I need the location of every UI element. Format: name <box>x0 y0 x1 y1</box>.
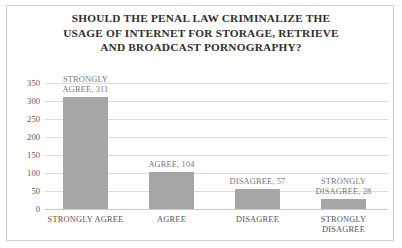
bar-disagree <box>235 189 280 210</box>
x-axis-label-strongly-disagree: STRONGLY DISAGREE <box>301 215 386 235</box>
chart-title: SHOULD THE PENAL LAW CRIMINALIZE THE USA… <box>33 11 369 55</box>
chart-title-line-2: USAGE OF INTERNET FOR STORAGE, RETRIEVE <box>33 26 369 41</box>
data-label-disagree-line-1: DISAGREE, 57 <box>215 177 300 187</box>
y-axis-tick-150: 150 <box>10 151 40 160</box>
y-axis-tick-200: 200 <box>10 133 40 142</box>
data-label-strongly-agree-line-1: STRONGLY <box>43 75 128 85</box>
data-label-strongly-agree: STRONGLY AGREE, 311 <box>43 75 128 94</box>
x-axis-label-agree: AGREE <box>129 215 214 225</box>
data-label-strongly-disagree-line-2: DISAGREE, 28 <box>301 187 386 197</box>
x-axis-label-disagree-line-1: DISAGREE <box>215 215 300 225</box>
bar-strongly-agree <box>63 97 108 209</box>
y-axis-tick-300: 300 <box>10 97 40 106</box>
data-label-strongly-disagree-line-1: STRONGLY <box>301 177 386 187</box>
y-axis-tick-0: 0 <box>10 205 40 214</box>
data-label-disagree: DISAGREE, 57 <box>215 177 300 187</box>
x-axis-label-strongly-disagree-line-1: STRONGLY <box>301 215 386 225</box>
y-axis-tick-100: 100 <box>10 169 40 178</box>
x-axis-label-strongly-agree-line-1: STRONGLY AGREE <box>43 215 128 225</box>
x-axis-label-strongly-disagree-line-2: DISAGREE <box>301 225 386 235</box>
x-axis-baseline <box>45 209 388 210</box>
x-axis-label-agree-line-1: AGREE <box>129 215 214 225</box>
data-label-strongly-agree-line-2: AGREE, 311 <box>43 85 128 95</box>
y-axis-tick-250: 250 <box>10 115 40 124</box>
chart-title-line-1: SHOULD THE PENAL LAW CRIMINALIZE THE <box>33 11 369 26</box>
chart-card: SHOULD THE PENAL LAW CRIMINALIZE THE USA… <box>6 5 394 241</box>
data-label-strongly-disagree: STRONGLY DISAGREE, 28 <box>301 177 386 196</box>
y-axis-tick-50: 50 <box>10 187 40 196</box>
data-label-agree-line-1: AGREE, 104 <box>129 160 214 170</box>
x-axis-label-strongly-agree: STRONGLY AGREE <box>43 215 128 225</box>
bar-agree <box>149 172 194 209</box>
data-label-agree: AGREE, 104 <box>129 160 214 170</box>
chart-title-line-3: AND BROADCAST PORNOGRAPHY? <box>33 40 369 55</box>
plot-area: 350 300 250 200 150 100 50 0 STRONGLY AG… <box>45 83 388 209</box>
bar-strongly-disagree <box>321 199 366 209</box>
x-axis-label-disagree: DISAGREE <box>215 215 300 225</box>
y-axis-tick-350: 350 <box>10 79 40 88</box>
